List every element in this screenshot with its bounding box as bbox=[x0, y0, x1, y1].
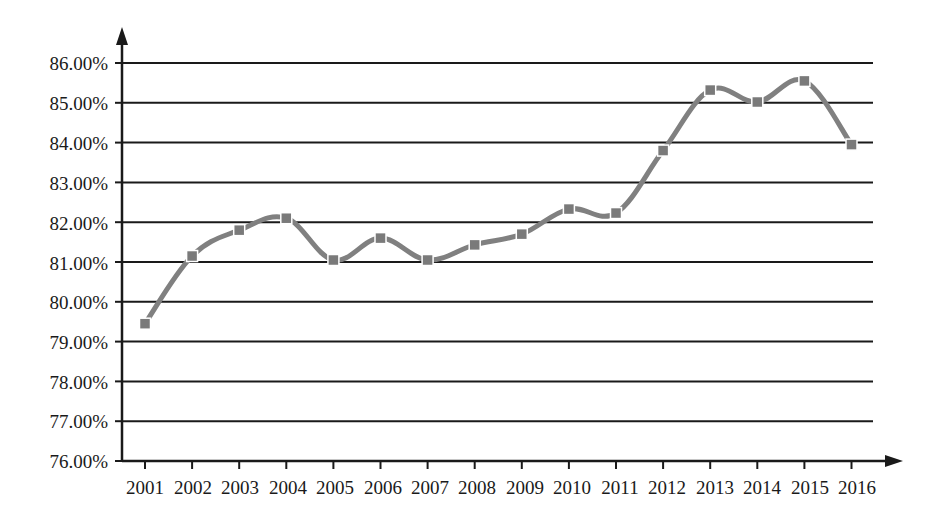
data-point-2005 bbox=[328, 255, 339, 266]
data-point-2014 bbox=[752, 97, 763, 108]
data-point-2009 bbox=[516, 229, 527, 240]
series-line bbox=[145, 80, 852, 324]
data-point-2013 bbox=[705, 85, 716, 96]
data-point-2001 bbox=[140, 318, 151, 329]
data-point-2010 bbox=[563, 204, 574, 215]
data-point-2008 bbox=[469, 239, 480, 250]
data-point-2007 bbox=[422, 255, 433, 266]
data-point-2015 bbox=[799, 75, 810, 86]
data-point-2003 bbox=[234, 225, 245, 236]
axes bbox=[116, 27, 903, 467]
data-point-2011 bbox=[611, 208, 622, 219]
data-point-2002 bbox=[187, 251, 198, 262]
series-markers bbox=[140, 75, 858, 329]
data-point-2012 bbox=[658, 145, 669, 156]
data-point-2006 bbox=[375, 233, 386, 244]
x-axis-arrow-icon bbox=[885, 455, 903, 467]
y-axis-arrow-icon bbox=[116, 27, 128, 45]
gridlines bbox=[122, 63, 873, 461]
plot-svg bbox=[0, 0, 934, 522]
data-point-2004 bbox=[281, 213, 292, 224]
chart-page: 86.00% 85.00% 84.00% 83.00% 82.00% 81.00… bbox=[0, 0, 934, 522]
line-chart: 86.00% 85.00% 84.00% 83.00% 82.00% 81.00… bbox=[0, 0, 934, 522]
data-point-2016 bbox=[846, 139, 857, 150]
